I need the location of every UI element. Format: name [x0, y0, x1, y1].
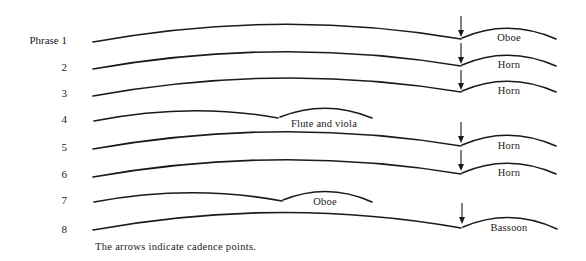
phrase-4-label: 4	[0, 113, 67, 125]
cadence-arrow-icon	[458, 43, 464, 64]
phrase-8-arc	[93, 212, 461, 230]
instrument-label-horn: Horn	[498, 140, 520, 152]
cadence-arrow-icon	[459, 203, 465, 224]
phrase-2-label: 2	[0, 61, 67, 73]
instrument-label-horn: Horn	[498, 85, 520, 97]
phrase-2-arc	[93, 52, 461, 69]
cadence-arrow-icon	[458, 122, 464, 143]
instrument-label-oboe: Oboe	[497, 32, 521, 44]
phrase-7-label: 7	[0, 194, 67, 206]
diagram-caption: The arrows indicate cadence points.	[95, 241, 256, 253]
instrument-label-bassoon: Bassoon	[491, 222, 528, 234]
instrument-label-flute-and-viola: Flute and viola	[291, 118, 357, 130]
cadence-arrow-icon	[458, 70, 464, 90]
instrument-label-horn: Horn	[498, 59, 520, 71]
phrase-3-arc	[93, 78, 461, 96]
phrase-6-label: 6	[0, 168, 67, 180]
phrase-3-label: 3	[0, 87, 67, 99]
phrase-7-arc	[94, 193, 282, 202]
instrument-label-horn: Horn	[498, 167, 520, 179]
phrase-1-label: Phrase 1	[0, 34, 67, 46]
phrase-4-arc	[94, 111, 278, 121]
cadence-arrow-icon	[458, 150, 464, 171]
phrase-1-arc	[93, 24, 461, 42]
phrase-4-continuation-arc	[280, 108, 372, 118]
phrase-5-label: 5	[0, 141, 67, 153]
instrument-label-oboe: Oboe	[313, 196, 337, 208]
phrase-6-arc	[93, 160, 461, 177]
cadence-arrow-icon	[458, 16, 464, 37]
phrase-structure-diagram: Phrase 1 2 3 4 5 6 7 8 Oboe Horn Horn Fl…	[0, 0, 586, 261]
phrase-5-arc	[93, 132, 461, 149]
phrase-8-label: 8	[0, 223, 67, 235]
